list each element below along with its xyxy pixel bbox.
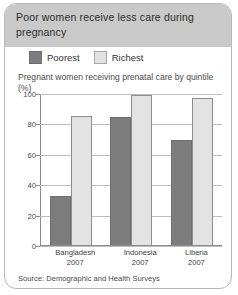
legend-label-richest: Richest bbox=[112, 52, 144, 63]
x-axis-tick-labels: Bangladesh2007Indonesia2007Liberia2007 bbox=[41, 248, 222, 268]
bar-series-layer bbox=[41, 94, 222, 245]
x-axis-year: 2007 bbox=[185, 258, 208, 268]
y-axis-tickmark bbox=[36, 216, 40, 217]
y-axis-tickmark bbox=[36, 246, 40, 247]
y-axis-tick-label: 100 bbox=[18, 90, 36, 99]
y-axis-tick-label: 40 bbox=[18, 181, 36, 190]
bar-richest-bangladesh bbox=[71, 116, 92, 245]
chart-legend: Poorest Richest bbox=[29, 51, 143, 64]
x-axis-tick-label: Liberia2007 bbox=[185, 248, 208, 268]
bar-poorest-indonesia bbox=[110, 117, 131, 245]
legend-label-poorest: Poorest bbox=[47, 52, 80, 63]
x-axis-year: 2007 bbox=[124, 258, 157, 268]
bar-group bbox=[50, 94, 92, 245]
y-axis-tickmark bbox=[36, 185, 40, 186]
y-axis-tickmark bbox=[36, 124, 40, 125]
x-axis-country-name: Bangladesh bbox=[55, 248, 95, 258]
y-axis-tick-label: 80 bbox=[18, 120, 36, 129]
x-axis-tick-label: Indonesia2007 bbox=[124, 248, 157, 268]
legend-item-richest: Richest bbox=[94, 51, 144, 64]
bar-poorest-liberia bbox=[171, 140, 192, 245]
bar-group bbox=[110, 94, 152, 245]
chart-card: Poor women receive less care during preg… bbox=[4, 3, 232, 289]
legend-swatch-poorest-icon bbox=[29, 51, 42, 64]
bar-poorest-bangladesh bbox=[50, 196, 71, 245]
chart-subtitle: Pregnant women receiving prenatal care b… bbox=[18, 72, 223, 94]
plot-area: 020406080100 bbox=[18, 94, 222, 246]
bar-group bbox=[171, 94, 213, 245]
x-axis-country-name: Liberia bbox=[185, 248, 208, 258]
y-axis-tickmark bbox=[36, 155, 40, 156]
y-axis-tickmark bbox=[36, 94, 40, 95]
y-axis-tick-label: 60 bbox=[18, 150, 36, 159]
card-header-band: Poor women receive less care during preg… bbox=[5, 4, 231, 47]
y-axis-tick-label: 20 bbox=[18, 211, 36, 220]
gridline bbox=[40, 246, 222, 247]
chart-source: Source: Demographic and Health Surveys bbox=[18, 274, 160, 283]
chart-title: Poor women receive less care during preg… bbox=[16, 10, 218, 39]
bar-richest-indonesia bbox=[131, 95, 152, 245]
x-axis-year: 2007 bbox=[55, 258, 95, 268]
x-axis-tick-label: Bangladesh2007 bbox=[55, 248, 95, 268]
bar-richest-liberia bbox=[192, 98, 213, 245]
y-axis-tick-label: 0 bbox=[18, 242, 36, 251]
legend-item-poorest: Poorest bbox=[29, 51, 80, 64]
x-axis-country-name: Indonesia bbox=[124, 248, 157, 258]
legend-swatch-richest-icon bbox=[94, 51, 107, 64]
